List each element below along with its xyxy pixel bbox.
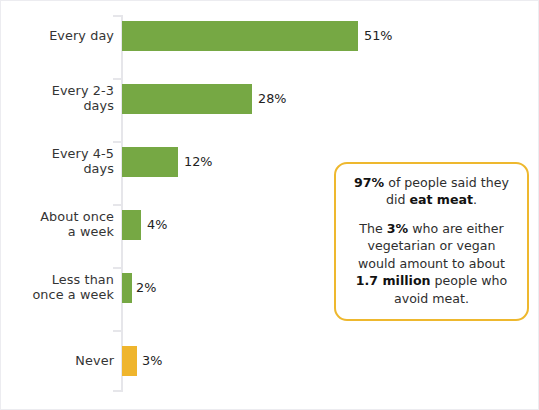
axis-tick (113, 330, 122, 332)
bar-every-4-5-days (122, 147, 178, 177)
category-label: Every 2-3 days (1, 83, 114, 113)
axis-tick (113, 390, 122, 392)
category-label-line: a week (1, 224, 114, 239)
callout-stat-97-percent: 97% (354, 175, 384, 190)
category-label-line: Every 2-3 (1, 83, 114, 98)
callout-stat-3-percent: 3% (387, 221, 408, 236)
callout-emphasis-eat-meat: eat meat (409, 192, 473, 207)
axis-tick (113, 204, 122, 206)
bar-every-2-3-days (122, 84, 252, 114)
category-label-line: Every day (1, 28, 114, 43)
category-label-line: days (1, 161, 114, 176)
bar-value-label: 51% (364, 28, 392, 43)
bar-about-once-a-week (122, 210, 141, 240)
axis-tick (113, 15, 122, 17)
bar-row: Never 3% (1, 346, 539, 376)
bar-less-than-once-a-week (122, 273, 132, 303)
bar-value-label: 28% (258, 91, 286, 106)
bar-never (122, 346, 137, 376)
category-label-line: days (1, 98, 114, 113)
bar-every-day (122, 21, 358, 51)
axis-tick (113, 141, 122, 143)
category-label-line: Never (1, 353, 114, 368)
category-label: Less than once a week (1, 272, 114, 302)
bar-value-label: 2% (136, 280, 156, 295)
category-label: Every 4-5 days (1, 146, 114, 176)
axis-tick (113, 267, 122, 269)
axis-tick (113, 78, 122, 80)
callout-paragraph-2: The 3% who are either vegetarian or vega… (350, 220, 513, 308)
bar-value-label: 12% (184, 154, 212, 169)
bar-value-label: 4% (147, 217, 167, 232)
category-label: Never (1, 353, 114, 368)
category-label-line: once a week (1, 287, 114, 302)
bar-row: Every day 51% (1, 21, 539, 51)
callout-stat-1-7-million: 1.7 million (356, 273, 431, 288)
category-label-line: About once (1, 209, 114, 224)
category-label: Every day (1, 28, 114, 43)
bar-row: Every 2-3 days 28% (1, 84, 539, 114)
chart-figure: Every day 51% Every 2-3 days 28% Every 4… (0, 0, 539, 410)
bar-value-label: 3% (142, 353, 162, 368)
callout-box: 97% of people said they did eat meat. Th… (334, 162, 529, 321)
callout-text: . (473, 192, 477, 207)
category-label: About once a week (1, 209, 114, 239)
category-label-line: Less than (1, 272, 114, 287)
category-label-line: Every 4-5 (1, 146, 114, 161)
callout-paragraph-1: 97% of people said they did eat meat. (350, 174, 513, 209)
callout-text: The (359, 221, 386, 236)
